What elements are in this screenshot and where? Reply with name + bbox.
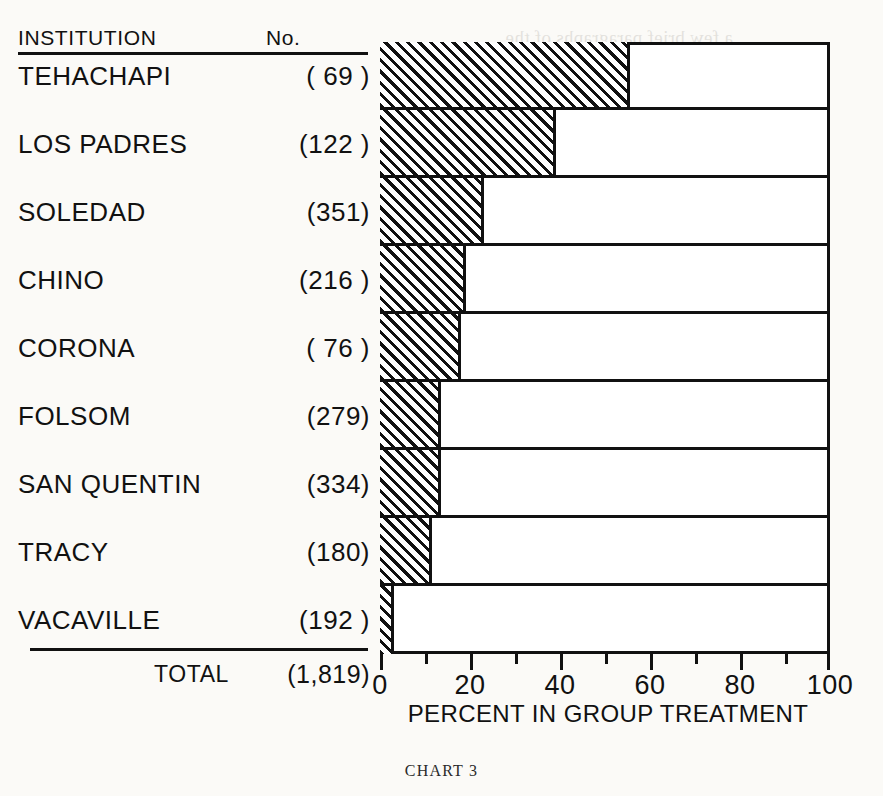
axis-tick-major — [470, 654, 473, 670]
bar-corona — [380, 314, 461, 379]
total-label: TOTAL — [154, 661, 229, 688]
bar-san-quentin — [380, 450, 441, 515]
axis-tick-label: 100 — [807, 670, 854, 701]
institution-count: (122 ) — [224, 129, 370, 160]
institution-name: VACAVILLE — [18, 605, 160, 636]
axis-tick-label: 40 — [544, 670, 575, 701]
institution-count: (192 ) — [224, 605, 370, 636]
bar-track — [380, 518, 830, 586]
axis-tick-label: 60 — [634, 670, 665, 701]
table-row: TRACY (180) — [14, 518, 366, 586]
table-row: VACAVILLE (192 ) — [14, 586, 366, 654]
institution-name: LOS PADRES — [18, 129, 187, 160]
axis-tick-major — [380, 654, 383, 670]
bar-track — [380, 246, 830, 314]
axis-tick-major — [740, 654, 743, 670]
institution-count: (279) — [224, 401, 370, 432]
institution-count: (351) — [224, 197, 370, 228]
bar-track — [380, 450, 830, 518]
axis-tick-minor — [515, 654, 518, 664]
axis-tick-minor — [785, 654, 788, 664]
table-row: LOS PADRES (122 ) — [14, 110, 366, 178]
institution-table: INSTITUTION No. TEHACHAPI ( 69 ) LOS PAD… — [0, 0, 375, 700]
axis-tick-label: 0 — [372, 670, 388, 701]
institution-count: ( 76 ) — [224, 333, 370, 364]
axis-tick-minor — [605, 654, 608, 664]
bar-vacaville — [380, 586, 394, 654]
table-row: TEHACHAPI ( 69 ) — [14, 42, 366, 110]
chart-caption: CHART 3 — [0, 762, 883, 780]
bar-plot — [380, 42, 830, 654]
institution-name: TEHACHAPI — [18, 61, 171, 92]
bar-track — [380, 314, 830, 382]
total-count: (1,819) — [224, 660, 370, 689]
institution-name: SAN QUENTIN — [18, 469, 201, 500]
axis-tick-label: 20 — [454, 670, 485, 701]
institution-name: TRACY — [18, 537, 109, 568]
bar-track — [380, 382, 830, 450]
institution-count: (216 ) — [224, 265, 370, 296]
table-row: SAN QUENTIN (334) — [14, 450, 366, 518]
bar-los-padres — [380, 110, 556, 175]
bar-chino — [380, 246, 466, 311]
institution-name: FOLSOM — [18, 401, 131, 432]
institution-count: (334) — [224, 469, 370, 500]
total-row: TOTAL (1,819) — [14, 652, 366, 696]
table-row: SOLEDAD (351) — [14, 178, 366, 246]
institution-count: (180) — [224, 537, 370, 568]
axis-tick-major — [650, 654, 653, 670]
bar-track — [380, 178, 830, 246]
axis-tick-minor — [425, 654, 428, 664]
bar-tehachapi — [380, 42, 630, 107]
institution-name: CORONA — [18, 333, 135, 364]
table-row: CORONA ( 76 ) — [14, 314, 366, 382]
institution-name: CHINO — [18, 265, 104, 296]
institution-count: ( 69 ) — [224, 61, 370, 92]
axis-tick-major — [827, 654, 830, 670]
table-row: CHINO (216 ) — [14, 246, 366, 314]
bar-tracy — [380, 518, 432, 583]
table-row: FOLSOM (279) — [14, 382, 366, 450]
axis-tick-label: 80 — [724, 670, 755, 701]
bar-folsom — [380, 382, 441, 447]
total-divider-rule — [30, 648, 368, 651]
axis-title: PERCENT IN GROUP TREATMENT — [382, 700, 834, 728]
bar-track — [380, 586, 830, 654]
bar-soledad — [380, 178, 484, 243]
axis-tick-major — [560, 654, 563, 670]
chart-3: INSTITUTION No. TEHACHAPI ( 69 ) LOS PAD… — [0, 0, 883, 796]
bar-track — [380, 110, 830, 178]
bar-track — [380, 42, 830, 110]
axis-tick-minor — [695, 654, 698, 664]
institution-name: SOLEDAD — [18, 197, 146, 228]
